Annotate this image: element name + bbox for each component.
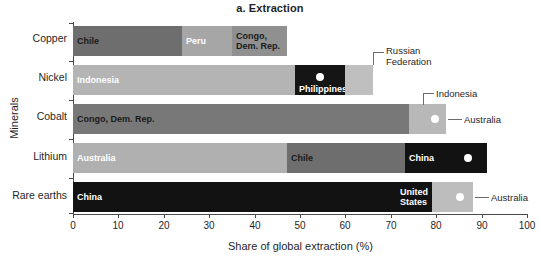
bar-row-cobalt: Congo, Dem. Rep.: [73, 104, 446, 134]
segment-label: Philippines: [299, 84, 345, 94]
y-category-copper: Copper: [27, 32, 67, 44]
segment-label: Congo, Dem. Rep.: [236, 31, 280, 51]
segment-nickel-indonesia[interactable]: Indonesia: [73, 65, 295, 95]
segment-label: Australia: [77, 153, 116, 163]
segment-label: China: [409, 153, 434, 163]
bar-row-lithium: Australia Chile China: [73, 143, 487, 173]
x-tick: [209, 214, 210, 218]
bar-row-nickel: Indonesia Philippines: [73, 65, 373, 95]
x-tick-label-80: 80: [416, 220, 456, 231]
x-axis-title: Share of global extraction (%): [73, 240, 528, 252]
marker-dot-nickel: [316, 73, 324, 81]
callout-line-cobalt-australia: [448, 119, 462, 120]
segment-copper-congo[interactable]: Congo, Dem. Rep.: [232, 26, 287, 56]
y-tick: [69, 23, 73, 24]
segment-copper-peru[interactable]: Peru: [182, 26, 232, 56]
y-tick: [69, 100, 73, 101]
y-tick: [69, 139, 73, 140]
segment-label: Indonesia: [77, 75, 119, 85]
x-tick-label-10: 10: [98, 220, 138, 231]
x-tick: [482, 214, 483, 218]
segment-label: Chile: [291, 153, 313, 163]
segment-lithium-china[interactable]: China: [405, 143, 487, 173]
x-tick: [164, 214, 165, 218]
x-tick: [255, 214, 256, 218]
x-tick: [300, 214, 301, 218]
callout-rare-earths-australia: Australia: [491, 192, 528, 203]
x-tick: [73, 214, 74, 218]
callout-line-cobalt-indonesia-h: [423, 93, 434, 94]
segment-lithium-australia[interactable]: Australia: [73, 143, 287, 173]
y-category-lithium: Lithium: [26, 150, 67, 162]
segment-lithium-chile[interactable]: Chile: [287, 143, 405, 173]
segment-nickel-russia[interactable]: [345, 65, 373, 95]
x-tick-label-50: 50: [280, 220, 320, 231]
bar-row-rare-earths: China United States: [73, 182, 473, 212]
y-tick: [69, 178, 73, 179]
marker-dot-rare-earths: [456, 193, 464, 201]
callout-line-cobalt-indonesia-v: [423, 93, 424, 105]
callout-cobalt-indonesia: Indonesia: [436, 88, 477, 99]
x-tick-label-0: 0: [53, 220, 93, 231]
x-tick: [391, 214, 392, 218]
segment-label: Peru: [186, 36, 206, 46]
callout-cobalt-australia: Australia: [464, 114, 501, 125]
x-tick-label-20: 20: [144, 220, 184, 231]
chart-title: a. Extraction: [0, 2, 540, 14]
marker-dot-lithium: [464, 154, 472, 162]
x-tick-label-30: 30: [189, 220, 229, 231]
segment-label: Chile: [77, 36, 99, 46]
x-tick: [436, 214, 437, 218]
y-tick: [69, 61, 73, 62]
x-tick-label-90: 90: [462, 220, 502, 231]
x-tick-label-70: 70: [371, 220, 411, 231]
marker-dot-cobalt: [431, 115, 439, 123]
x-tick: [345, 214, 346, 218]
segment-cobalt-other[interactable]: [409, 104, 446, 134]
y-category-cobalt: Cobalt: [28, 110, 67, 122]
callout-line-nickel-russia-v: [373, 52, 374, 65]
y-category-nickel: Nickel: [30, 71, 67, 83]
segment-label-united-states: United States: [400, 187, 428, 207]
segment-nickel-philippines[interactable]: Philippines: [295, 65, 345, 95]
callout-line-nickel-russia-h: [373, 52, 384, 53]
x-tick-label-60: 60: [325, 220, 365, 231]
x-tick-label-40: 40: [235, 220, 275, 231]
chart-figure: a. Extraction Minerals Copper Nickel Cob…: [0, 0, 540, 266]
y-category-rare-earths: Rare earths: [7, 189, 67, 201]
segment-rare-earths-other[interactable]: [432, 182, 473, 212]
bar-row-copper: Chile Peru Congo, Dem. Rep.: [73, 26, 287, 56]
x-tick: [527, 214, 528, 218]
segment-cobalt-congo[interactable]: Congo, Dem. Rep.: [73, 104, 409, 134]
segment-label: Congo, Dem. Rep.: [77, 114, 155, 124]
y-axis-title: Minerals: [8, 97, 20, 139]
x-tick: [118, 214, 119, 218]
callout-nickel-russian-federation: Russian Federation: [386, 45, 431, 67]
segment-rare-earths-china[interactable]: China United States: [73, 182, 432, 212]
callout-line-rare-earths-australia: [475, 197, 489, 198]
x-tick-label-100: 100: [507, 220, 540, 231]
segment-copper-chile[interactable]: Chile: [73, 26, 182, 56]
segment-label: China: [77, 192, 102, 202]
